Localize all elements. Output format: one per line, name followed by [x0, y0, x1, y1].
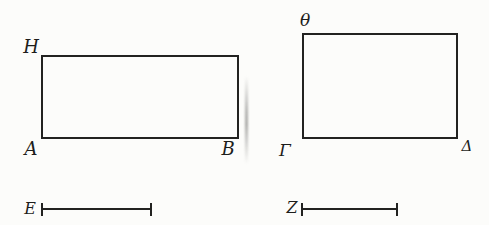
- label-point-a: A: [25, 140, 38, 158]
- label-point-b: B: [221, 140, 234, 158]
- segment-e-line: [43, 208, 150, 210]
- segment-z-line: [303, 208, 396, 210]
- label-point-gamma: Γ: [279, 142, 291, 159]
- label-point-theta: θ: [300, 12, 310, 29]
- segment-e: [41, 203, 152, 216]
- label-point-h: H: [23, 38, 39, 56]
- rectangle-right: [302, 33, 458, 139]
- label-segment-e: E: [24, 201, 36, 217]
- rectangle-left: [41, 55, 239, 139]
- label-segment-z: Z: [286, 200, 297, 216]
- scan-artifact: [245, 76, 248, 164]
- label-point-delta: Δ: [462, 139, 473, 154]
- figure-canvas: H A B θ Γ Δ E Z: [0, 0, 489, 225]
- segment-z: [301, 203, 398, 216]
